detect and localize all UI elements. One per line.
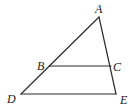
triangle-diagram: A B C D E — [0, 0, 133, 106]
segment-AE — [99, 17, 116, 94]
label-B: B — [37, 59, 45, 73]
segment-AD — [21, 17, 99, 94]
label-C: C — [113, 60, 122, 74]
label-E: E — [119, 93, 128, 106]
label-A: A — [94, 2, 103, 16]
label-D: D — [6, 92, 16, 106]
